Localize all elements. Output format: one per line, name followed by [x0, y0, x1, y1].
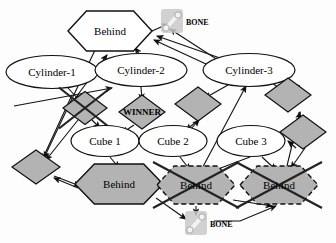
node-diamond-winner[interactable]: WINNER — [119, 95, 165, 129]
node-diamond-crossed-left[interactable] — [59, 88, 111, 129]
bone-icon-knob-a — [163, 25, 169, 31]
node-label: Behind — [103, 178, 135, 190]
node-label: Cylinder-1 — [28, 66, 75, 78]
node-bone-bottom[interactable]: BONE — [185, 211, 233, 235]
node-label: Cylinder-3 — [225, 64, 273, 76]
bone-icon-knob-b — [175, 12, 181, 18]
node-label: Cube 3 — [235, 135, 267, 147]
node-behind-bottom-left[interactable]: Behind — [75, 164, 163, 204]
node-cylinder-1[interactable]: Cylinder-1 — [6, 56, 98, 89]
node-cube-1[interactable]: Cube 1 — [71, 126, 139, 157]
node-label: Behind — [94, 25, 126, 37]
node-diamond-bottom-left[interactable] — [12, 150, 60, 184]
node-label: Behind — [263, 179, 295, 191]
node-label: WINNER — [123, 107, 162, 117]
node-shape-diamond — [280, 115, 326, 149]
node-shape-diamond — [175, 87, 221, 121]
node-bone-top[interactable]: BONE — [161, 9, 209, 33]
bone-icon-knob-a — [187, 227, 193, 233]
node-behind-bottom-right[interactable]: Behind — [236, 162, 322, 208]
node-diamond-mid[interactable] — [175, 87, 221, 121]
node-cube-2[interactable]: Cube 2 — [139, 126, 207, 157]
node-behind-bottom-mid[interactable]: Behind — [153, 162, 239, 208]
node-cylinder-2[interactable]: Cylinder-2 — [95, 54, 187, 87]
bone-icon-knob-b — [199, 214, 205, 220]
node-cube-3[interactable]: Cube 3 — [217, 126, 285, 157]
node-cylinder-3[interactable]: Cylinder-3 — [203, 54, 295, 87]
node-diamond-right-lower[interactable] — [280, 115, 326, 149]
diagram-canvas: BehindBONECylinder-1Cylinder-2Cylinder-3… — [0, 0, 336, 243]
node-label: Cube 1 — [89, 135, 120, 147]
nodes-layer: BehindBONECylinder-1Cylinder-2Cylinder-3… — [0, 0, 336, 243]
node-label: BONE — [210, 220, 233, 229]
node-label: BONE — [186, 18, 209, 27]
node-behind-top[interactable]: Behind — [68, 11, 152, 51]
node-shape-diamond — [12, 150, 60, 184]
node-label: Cube 2 — [157, 135, 188, 147]
node-label: Cylinder-2 — [117, 64, 164, 76]
node-label: Behind — [180, 179, 212, 191]
